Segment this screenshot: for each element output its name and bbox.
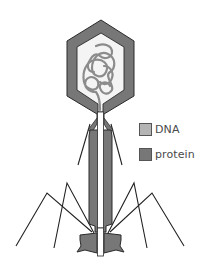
core-tube xyxy=(98,112,104,228)
legend-item-dna: DNA xyxy=(139,122,195,137)
dna-swatch xyxy=(139,123,152,136)
protein-swatch xyxy=(139,148,152,161)
legend-label-protein: protein xyxy=(155,148,195,161)
legend-label-dna: DNA xyxy=(155,123,180,136)
legend-item-protein: protein xyxy=(139,147,195,162)
legend: DNA protein xyxy=(139,122,195,172)
core-tube-tip xyxy=(98,228,104,256)
